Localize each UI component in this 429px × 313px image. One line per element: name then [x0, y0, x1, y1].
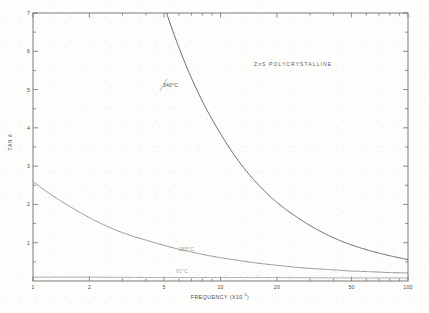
x-tick-label: 5 [153, 284, 175, 290]
x-tick-label: 2 [78, 284, 100, 290]
y-tick-label: 1 [17, 240, 30, 246]
axis-tickmarks [33, 13, 408, 281]
y-tick-label: 7 [17, 10, 30, 16]
curve-label-91c: 91°C [176, 268, 188, 274]
y-tick-label: 3 [17, 163, 30, 169]
x-tick-label: 100 [397, 284, 419, 290]
data-curves [33, 0, 408, 278]
chart-plot-area [0, 0, 429, 313]
y-tick-label: 5 [17, 87, 30, 93]
x-axis-title: FREQUENCY (X10-3) [150, 293, 290, 300]
x-axis-title-suffix: ) [247, 294, 249, 300]
x-tick-label: 1 [22, 284, 44, 290]
sample-annotation: ZnS POLYCRYSTALLINE [254, 61, 332, 67]
curve-label-265c: 265°C [179, 246, 194, 252]
x-axis-title-text: FREQUENCY (X10 [191, 294, 243, 300]
y-axis-title: TAN δ [7, 119, 13, 165]
x-tick-label: 10 [210, 284, 232, 290]
y-tick-label: 2 [17, 201, 30, 207]
plot-frame [33, 13, 408, 281]
curve-label-340c: 340°C [163, 82, 178, 88]
x-tick-label: 50 [341, 284, 363, 290]
x-tick-label: 20 [266, 284, 288, 290]
y-tick-label: 6 [17, 48, 30, 54]
curve-265c [33, 181, 408, 272]
curve-340c [33, 0, 408, 260]
figure-canvas: 1234567 125102050100 TAN δ FREQUENCY (X1… [0, 0, 429, 313]
y-tick-label: 4 [17, 125, 30, 131]
